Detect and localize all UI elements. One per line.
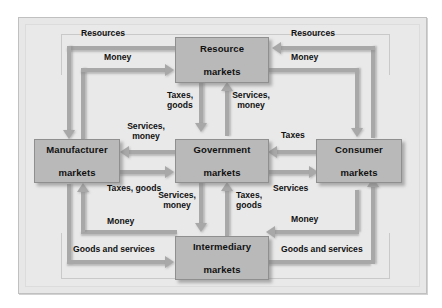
flow-money-top-left-bar-h: [81, 68, 167, 72]
flow-services-money-left-bar: [129, 150, 177, 154]
flow-money-bottom-right-bar-h: [275, 230, 359, 234]
node-manufacturer-markets[interactable]: Manufacturermarkets: [34, 139, 120, 183]
node-intermediary-label: Intermediarymarkets: [193, 241, 251, 276]
flow-taxes-right-label: Taxes: [281, 130, 305, 140]
flow-goods-bottom-right-label: Goods and services: [281, 244, 363, 254]
flow-resources-top-left-label: Resources: [81, 28, 125, 38]
node-intermediary-markets[interactable]: Intermediarymarkets: [175, 236, 269, 280]
flow-money-top-left-bar-v: [81, 68, 85, 140]
flow-taxes-right-head: [268, 146, 277, 158]
node-resource-label: Resourcemarkets: [200, 43, 244, 78]
flow-taxes-goods-left-bar: [119, 170, 167, 174]
flow-money-bottom-left-bar-h: [81, 230, 177, 234]
flow-resources-top-right-head: [272, 42, 281, 54]
flow-taxes-right-bar: [277, 150, 321, 154]
flow-money-bottom-left-head: [77, 183, 89, 192]
flow-taxes-goods-upper-head: [195, 123, 207, 132]
flow-money-top-right-bar-h: [269, 68, 359, 72]
node-consumer-markets[interactable]: Consumermarkets: [316, 139, 402, 183]
flow-services-money-lower-head: [195, 223, 207, 232]
flow-money-top-left-head: [165, 64, 174, 76]
flow-services-money-left-head: [120, 146, 129, 158]
flow-goods-bottom-right-bar-v: [371, 186, 375, 264]
flow-taxes-goods-upper-label: Taxes, goods: [165, 90, 195, 110]
flow-taxes-goods-left-label: Taxes, goods: [107, 183, 161, 193]
flow-money-top-right-label: Money: [291, 52, 318, 62]
flow-resources-top-right-label: Resources: [291, 28, 335, 38]
flow-money-top-left-label: Money: [104, 52, 131, 62]
flow-goods-bottom-left-bar-v: [67, 184, 71, 264]
node-government-markets[interactable]: Governmentmarkets: [175, 139, 269, 183]
flow-services-money-upper-bar: [225, 90, 229, 136]
flow-resources-top-right-bar-v: [371, 46, 375, 138]
flow-taxes-goods-lower-bar: [225, 190, 229, 236]
node-manufacturer-label: Manufacturermarkets: [46, 144, 107, 179]
flow-services-right-bar: [267, 170, 311, 174]
flow-money-top-right-bar-v: [355, 68, 359, 130]
flow-services-money-lower-label: Services, money: [155, 190, 199, 210]
flow-resources-top-left-bar-v: [67, 46, 71, 132]
flow-goods-bottom-left-label: Goods and services: [73, 244, 155, 254]
flow-goods-bottom-left-bar-h: [67, 260, 167, 264]
flow-services-money-upper-label: Services, money: [231, 90, 271, 110]
node-resource-markets[interactable]: Resourcemarkets: [175, 37, 269, 83]
flow-resources-top-left-head: [63, 130, 75, 139]
diagram-canvas: Resourcemarkets Manufacturermarkets Gove…: [0, 0, 442, 308]
flow-goods-bottom-right-bar-h: [267, 260, 371, 264]
flow-money-bottom-left-bar-v: [81, 190, 85, 232]
flow-money-top-right-head: [351, 128, 363, 137]
flow-services-money-left-label: Services, money: [123, 121, 169, 141]
flow-taxes-goods-left-head: [165, 166, 174, 178]
diagram-panel: Resourcemarkets Manufacturermarkets Gove…: [18, 17, 427, 294]
flow-taxes-goods-lower-label: Taxes, goods: [233, 190, 265, 210]
flow-taxes-goods-upper-bar: [199, 81, 203, 125]
flow-services-right-label: Services: [273, 183, 308, 193]
flow-resources-top-right-bar-h: [281, 46, 375, 50]
flow-money-bottom-left-label: Money: [107, 216, 134, 226]
flow-goods-bottom-left-head: [165, 256, 174, 268]
flow-money-bottom-right-label: Money: [291, 214, 318, 224]
flow-money-bottom-right-bar-v: [355, 190, 359, 232]
track-outer-bottom-right: [249, 233, 390, 279]
node-consumer-label: Consumermarkets: [335, 144, 383, 179]
flow-services-money-lower-bar: [199, 181, 203, 225]
flow-taxes-goods-lower-head: [221, 182, 233, 191]
node-government-label: Governmentmarkets: [194, 144, 251, 179]
flow-resources-top-left-bar-h: [67, 46, 177, 50]
